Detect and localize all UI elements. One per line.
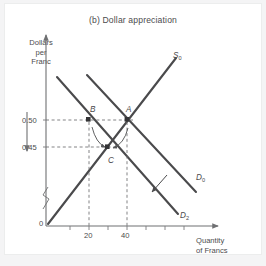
supply-curve-s0 [48, 58, 176, 224]
figure-container: (b) Dollar appreciation Dollars per Fran… [0, 0, 266, 266]
data-point-c [105, 144, 110, 149]
demand-curve-d0 [87, 75, 196, 192]
data-point-a [125, 117, 130, 122]
data-point-b [86, 117, 91, 122]
demand-shift-arrow [152, 175, 167, 192]
plot-area [0, 0, 266, 266]
